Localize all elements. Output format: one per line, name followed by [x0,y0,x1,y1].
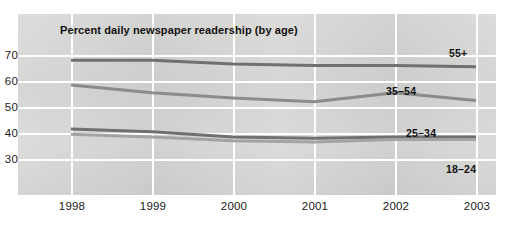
page-title: Percent daily newspaper readership (by a… [60,24,298,36]
series-line-55plus [71,60,476,66]
y-axis-tick-label: 30 [0,153,18,165]
x-axis-tick-label: 2001 [285,200,345,212]
x-axis-tick-label: 2002 [366,200,426,212]
x-axis-tick-label: 2003 [447,200,507,212]
y-axis-tick-label: 70 [0,49,18,61]
y-axis-tick-label: 40 [0,127,18,139]
series-label-18-24: 18–24 [446,163,476,175]
y-axis-tick-label: 60 [0,75,18,87]
series-label-35-54: 35–54 [386,85,416,97]
series-label-25-34: 25–34 [406,127,436,139]
x-axis-tick-label: 1999 [123,200,183,212]
x-axis-tick-label: 1998 [42,200,102,212]
newspaper-readership-chart: Percent daily newspaper readership (by a… [0,0,517,233]
x-axis-tick-label: 2000 [204,200,264,212]
series-lines-layer [18,14,496,195]
series-label-55plus: 55+ [449,47,467,59]
y-axis-tick-label: 50 [0,101,18,113]
